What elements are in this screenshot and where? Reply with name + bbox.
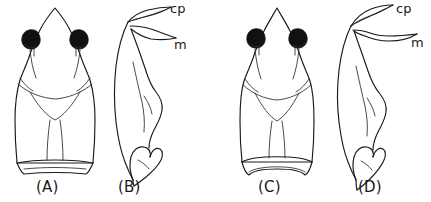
- cp-process-inner-line: [133, 11, 162, 20]
- annotation-cp-panel-d: cp: [396, 1, 411, 16]
- terminal-base: [353, 147, 373, 180]
- shaft-outer-margin: [115, 22, 134, 180]
- posterior-margin-lower: [242, 162, 312, 175]
- panel-c-drawing: [222, 0, 332, 202]
- terminal-claw-tip: [356, 180, 357, 190]
- panel-a-dorsal-view: [0, 0, 110, 202]
- gill-fold-right: [296, 79, 309, 92]
- panel-b-lateral-appendage: [100, 0, 205, 202]
- ventral-fold-arc: [30, 92, 80, 120]
- m-process-upper-edge: [130, 26, 176, 38]
- panel-b-drawing: [100, 0, 205, 202]
- cp-process-inner-line: [356, 9, 385, 23]
- panel-a-drawing: [0, 0, 110, 202]
- posterior-margin-upper: [242, 157, 312, 162]
- ventral-fold-left: [269, 121, 272, 158]
- snout-line-right: [74, 50, 80, 78]
- shaft-fold: [144, 96, 152, 114]
- snout-line-right: [293, 49, 299, 79]
- m-process-lower-edge: [131, 29, 176, 40]
- panel-label-c: (C): [258, 178, 281, 196]
- panel-label-b: (B): [118, 178, 141, 196]
- posterior-margin-inner: [24, 168, 86, 170]
- figure-plate: cp m cp m (A) (B) (C) (D): [0, 0, 431, 202]
- shaft-fold: [367, 98, 375, 116]
- panel-label-a: (A): [36, 178, 59, 196]
- terminal-inner-line: [361, 161, 372, 170]
- annotation-m-panel-b: m: [174, 37, 187, 52]
- ventral-fold-left: [47, 120, 50, 160]
- gill-arc: [18, 84, 92, 99]
- shaft-inner-margin: [131, 29, 162, 148]
- snout-line-left: [30, 50, 36, 78]
- shaft-outer-margin: [338, 26, 357, 180]
- gill-arc: [243, 85, 311, 100]
- ventral-fold-arc: [255, 93, 299, 121]
- panel-d-lateral-appendage: [325, 0, 431, 202]
- gill-fold-right: [77, 78, 90, 91]
- terminal-base: [130, 147, 150, 180]
- ventral-fold-right: [60, 120, 63, 160]
- panel-d-drawing: [325, 0, 431, 202]
- shaft-inner-margin: [354, 31, 386, 150]
- snout-line-left: [255, 49, 261, 79]
- annotation-cp-panel-b: cp: [170, 1, 185, 16]
- shaft-striation: [133, 62, 144, 132]
- panel-label-d: (D): [358, 178, 382, 196]
- annotation-m-panel-d: m: [411, 35, 424, 50]
- terminal-inner-line: [138, 160, 149, 169]
- gill-fold-left: [245, 79, 258, 92]
- shaft-striation: [356, 66, 367, 136]
- ventral-fold-right: [282, 121, 285, 158]
- gill-fold-left: [20, 78, 33, 91]
- panel-c-dorsal-view: [222, 0, 332, 202]
